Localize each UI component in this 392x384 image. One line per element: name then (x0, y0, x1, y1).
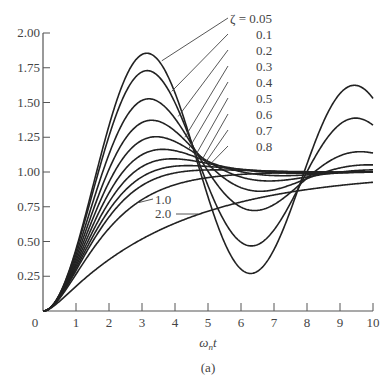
y-tick-label: 1.00 (17, 164, 40, 179)
x-tick-label: 6 (238, 315, 245, 330)
y-tick-label: 0.75 (17, 199, 40, 214)
x-tick-label: 1 (73, 315, 80, 330)
zeta-label: ζ = 0.05 (230, 11, 272, 26)
curve-zeta-0.1 (43, 71, 373, 311)
zeta-label: 2.0 (155, 206, 171, 221)
axes: 0123456789100.250.500.751.001.251.501.75… (17, 25, 379, 330)
x-axis-label: ωnt (199, 335, 217, 352)
x-tick-label: 4 (172, 315, 179, 330)
y-tick-label: 0.25 (17, 268, 40, 283)
zeta-label: 0.4 (256, 75, 273, 90)
x-tick-label: 3 (139, 315, 146, 330)
zeta-label: 0.8 (256, 139, 272, 154)
y-tick-label: 2.00 (17, 25, 40, 40)
x-tick-label: 8 (304, 315, 311, 330)
zeta-label: 0.6 (256, 107, 273, 122)
y-tick-label: 1.50 (17, 95, 40, 110)
zeta-label: 0.5 (256, 91, 272, 106)
x-tick-label: 5 (205, 315, 212, 330)
response-curves (43, 53, 373, 311)
x-tick-label: 10 (367, 315, 380, 330)
zeta-label: 0.1 (256, 27, 272, 42)
step-response-chart: 0123456789100.250.500.751.001.251.501.75… (0, 0, 392, 384)
curve-zeta-0.6 (43, 159, 373, 311)
x-tick-label: 0 (32, 315, 39, 330)
zeta-label: 0.2 (256, 43, 272, 58)
x-tick-label: 9 (337, 315, 344, 330)
y-tick-label: 1.75 (17, 60, 40, 75)
zeta-label: 1.0 (155, 192, 171, 207)
y-tick-label: 1.25 (17, 129, 40, 144)
figure-caption: (a) (201, 360, 215, 375)
x-tick-label: 2 (106, 315, 113, 330)
curve-zeta-0.2 (43, 99, 373, 311)
y-tick-label: 0.50 (17, 234, 40, 249)
zeta-label: 0.7 (256, 123, 273, 138)
zeta-label: 0.3 (256, 59, 272, 74)
x-tick-label: 7 (271, 315, 278, 330)
